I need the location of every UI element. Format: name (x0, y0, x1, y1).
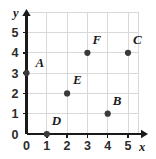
y-axis-tick-labels: 012345 (12, 26, 19, 142)
point-label-C: C (133, 32, 142, 47)
x-tick-label-1: 1 (43, 139, 50, 153)
y-tick-label-5: 5 (12, 26, 19, 40)
coordinate-plane-figure: 012345 012345 AEDBFC x y (0, 0, 156, 159)
y-axis-label: y (11, 6, 19, 20)
x-axis-arrowhead (141, 130, 148, 138)
x-axis-label: x (138, 140, 145, 154)
point-label-D: D (51, 113, 62, 128)
point-label-F: F (91, 32, 101, 47)
point-label-B: B (112, 93, 122, 108)
data-point-D (44, 131, 50, 137)
data-point-B (105, 111, 111, 117)
y-tick-label-2: 2 (12, 87, 19, 101)
data-point-E (64, 90, 70, 96)
data-point-A (23, 70, 29, 76)
x-tick-label-3: 3 (84, 139, 91, 153)
x-tick-label-2: 2 (64, 139, 71, 153)
scatter-plot-svg: 012345 012345 AEDBFC x y (0, 0, 156, 159)
x-tick-label-0: 0 (23, 139, 30, 153)
x-tick-label-4: 4 (104, 139, 111, 153)
point-label-A: A (35, 55, 45, 70)
y-tick-label-0: 0 (12, 128, 19, 142)
y-tick-label-4: 4 (12, 46, 19, 60)
y-tick-label-3: 3 (12, 67, 19, 81)
data-point-F (84, 50, 90, 56)
x-tick-label-5: 5 (125, 139, 132, 153)
x-axis-tick-labels: 012345 (23, 139, 132, 153)
y-tick-label-1: 1 (12, 107, 19, 121)
point-label-E: E (72, 72, 82, 87)
data-point-C (125, 50, 131, 56)
